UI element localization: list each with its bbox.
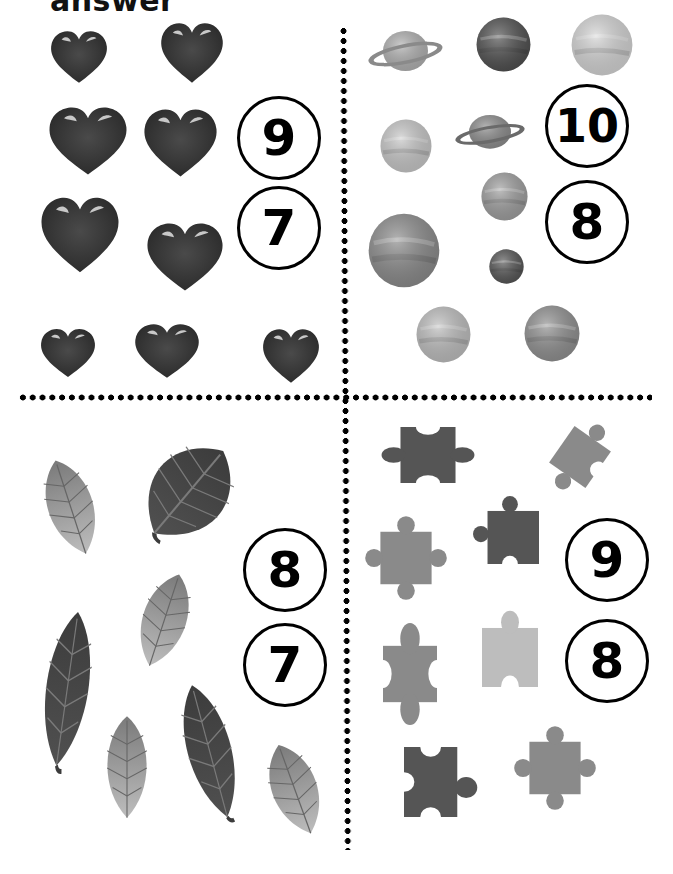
heart-icon: [48, 106, 128, 176]
answer-option-8[interactable]: 8: [243, 528, 327, 612]
puzzle-piece-icon: [383, 630, 437, 718]
puzzle-piece-icon: [482, 615, 538, 687]
planet-icon: [380, 119, 432, 173]
planet-icon: [571, 14, 633, 76]
leaf-icon: [162, 675, 257, 831]
puzzle-piece-icon: [543, 420, 617, 494]
puzzle-piece-icon: [515, 727, 595, 809]
heart-icon: [40, 196, 120, 274]
answer-option-7[interactable]: 7: [237, 186, 321, 270]
heart-icon: [134, 323, 200, 379]
leaf-icon: [27, 605, 107, 776]
heart-icon: [262, 328, 320, 384]
leaf-icon: [112, 416, 265, 570]
answer-option-9[interactable]: 9: [565, 518, 649, 602]
ringed-planet-icon: [368, 25, 443, 75]
heart-icon: [160, 22, 224, 84]
leaf-icon: [25, 449, 116, 567]
planet-icon: [489, 249, 524, 284]
heart-icon: [146, 222, 224, 292]
puzzle-piece-icon: [366, 517, 446, 599]
planet-icon: [476, 17, 531, 72]
heart-icon: [40, 328, 96, 378]
answer-option-10[interactable]: 10: [545, 84, 629, 168]
planet-icon: [368, 213, 440, 288]
ringed-planet-icon: [455, 110, 525, 152]
heart-icon: [50, 30, 108, 84]
leaf-icon: [249, 732, 341, 847]
answer-option-9[interactable]: 9: [237, 96, 321, 180]
horizontal-dotted-divider: [18, 394, 652, 401]
planet-icon: [416, 306, 471, 363]
puzzle-piece-icon: [385, 427, 471, 483]
puzzle-piece-icon: [404, 747, 478, 817]
vertical-dotted-divider: [340, 26, 351, 850]
answer-option-8[interactable]: 8: [565, 619, 649, 703]
planet-icon: [481, 172, 528, 221]
leaf-icon: [120, 563, 209, 679]
leaf-icon: [100, 714, 154, 822]
answer-option-8[interactable]: 8: [545, 180, 629, 264]
planet-icon: [524, 305, 580, 362]
puzzle-piece-icon: [473, 496, 539, 564]
instruction-title: answer: [50, 0, 175, 18]
heart-icon: [143, 108, 218, 178]
answer-option-7[interactable]: 7: [243, 623, 327, 707]
